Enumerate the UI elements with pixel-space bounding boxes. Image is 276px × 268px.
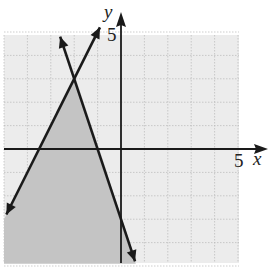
y-tick-label: 5 [107,24,117,45]
y-axis-arrow-icon [116,12,126,27]
x-axis-label: x [252,148,262,169]
graph: y 5 5 x [0,0,276,268]
x-tick-label: 5 [234,150,244,171]
y-axis-label: y [102,1,113,22]
